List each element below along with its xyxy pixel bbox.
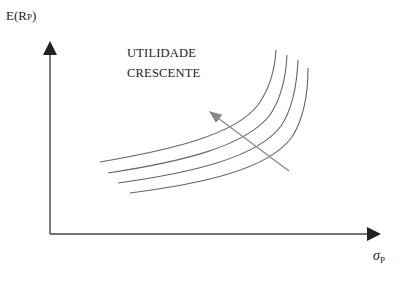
annotation-crescente: CRESCENTE xyxy=(127,66,200,81)
x-axis-label: σP xyxy=(373,248,385,265)
increasing-utility-arrow xyxy=(214,115,289,171)
annotation-utilidade: UTILIDADE xyxy=(127,46,196,61)
utility-diagram xyxy=(0,0,402,282)
y-axis-label: E(RP) xyxy=(6,8,36,24)
indifference-curve-4 xyxy=(130,68,308,193)
